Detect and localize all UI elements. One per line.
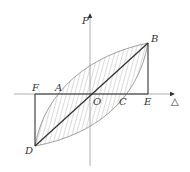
hysteresis-diagram: P B F A O C E D △	[0, 0, 190, 172]
label-F: F	[31, 82, 40, 93]
label-delta: △	[171, 96, 179, 107]
label-B: B	[150, 33, 158, 44]
label-D: D	[24, 145, 33, 156]
label-C: C	[119, 96, 127, 107]
label-P: P	[81, 15, 89, 26]
label-E: E	[143, 96, 152, 107]
label-A: A	[54, 82, 62, 93]
label-O: O	[93, 96, 101, 107]
